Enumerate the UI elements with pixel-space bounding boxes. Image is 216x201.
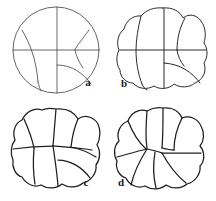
- figure-b-chamber-wall-lower-right: [164, 63, 200, 83]
- figure-b-outline: [117, 8, 207, 89]
- figure-b-label: b: [121, 77, 127, 89]
- figure-d: d: [115, 108, 204, 189]
- figure-a-chamber-arc-upper-left: [22, 30, 38, 82]
- figure-d-label: d: [118, 176, 124, 188]
- figure-d-chamber-wall-top-middle: [162, 108, 163, 148]
- figure-c-chamber-wall-upper-left: [24, 119, 34, 148]
- figure-c-horizontal-line-right: [53, 146, 92, 150]
- figure-b-chamber-wall-lower-left: [142, 84, 147, 90]
- figure-d-chamber-wall-lower-left: [131, 149, 147, 185]
- figure-a: a: [13, 7, 99, 93]
- figure-a-chamber-arc-upper-right: [75, 30, 89, 50]
- figure-c-horizontal-line-left: [13, 146, 53, 149]
- figure-b-chamber-wall-right-mid: [177, 50, 184, 66]
- figure-d-chamber-wall-upper-left: [146, 111, 147, 148]
- figure-c-chamber-wall-lower-left: [33, 148, 35, 184]
- figure-c-label: c: [84, 176, 89, 188]
- figure-c-vertical-line-upper: [53, 109, 56, 146]
- figure-c: c: [11, 108, 100, 188]
- figure-plate: a b: [0, 0, 216, 201]
- figure-d-central-node-upper: [162, 148, 174, 150]
- figure-d-chamber-wall-upper-right: [174, 118, 182, 150]
- figure-c-vertical-line-lower: [53, 146, 58, 186]
- figure-d-chamber-wall-lower-middle: [154, 152, 156, 188]
- figure-d-chamber-wall-lower-right: [162, 153, 186, 183]
- figure-c-chamber-wall-upper-right: [71, 119, 78, 147]
- figure-d-chamber-wall-left: [128, 121, 146, 149]
- figure-a-chamber-arc-right-lower: [75, 50, 83, 68]
- figure-b-chamber-wall-upper-right: [177, 18, 185, 50]
- foraminifera-plate-svg: a b: [0, 0, 216, 201]
- figure-d-outline: [115, 108, 204, 189]
- figure-a-label: a: [85, 76, 91, 88]
- figure-b: b: [117, 8, 207, 90]
